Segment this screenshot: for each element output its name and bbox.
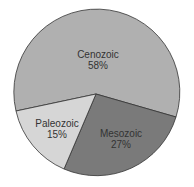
slice-percent: 15%: [27, 129, 87, 140]
label-paleozoic: Paleozoic 15%: [27, 118, 87, 140]
slice-name: Cenozoic: [68, 49, 128, 60]
slice-name: Mesozoic: [91, 128, 151, 139]
slice-percent: 58%: [68, 60, 128, 71]
label-mesozoic: Mesozoic 27%: [91, 128, 151, 150]
slice-percent: 27%: [91, 139, 151, 150]
slice-name: Paleozoic: [27, 118, 87, 129]
label-cenozoic: Cenozoic 58%: [68, 49, 128, 71]
pie-chart: [0, 0, 194, 187]
